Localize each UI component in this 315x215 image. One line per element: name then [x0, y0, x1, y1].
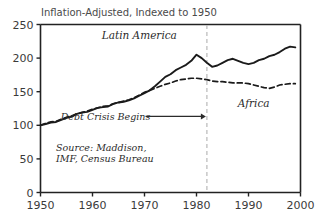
chart-container: Inflation-Adjusted, Indexed to 1950 0501…	[0, 0, 315, 215]
chart-figure: Inflation-Adjusted, Indexed to 1950 0501…	[0, 0, 315, 215]
x-tick-label: 1980	[183, 199, 211, 212]
x-tick-label: 1990	[235, 199, 263, 212]
y-tick-label: 50	[20, 153, 34, 166]
chart-title: Inflation-Adjusted, Indexed to 1950	[41, 7, 217, 18]
x-tick-label: 1960	[79, 199, 107, 212]
annotation-debt-crisis: Debt Crisis Begins	[60, 111, 151, 122]
y-tick-label: 250	[13, 19, 34, 32]
source-note-line-1: Source: Maddison,	[56, 142, 146, 153]
y-tick-label: 200	[13, 52, 34, 65]
series-label-africa: Africa	[237, 97, 270, 109]
x-tick-label: 1950	[27, 199, 55, 212]
y-tick-label: 100	[13, 119, 34, 132]
series-label-latin-america: Latin America	[101, 29, 177, 41]
x-tick-label: 2000	[287, 199, 315, 212]
x-tick-label: 1970	[131, 199, 159, 212]
source-note-line-2: IMF, Census Bureau	[55, 153, 154, 164]
y-tick-label: 150	[13, 86, 34, 99]
